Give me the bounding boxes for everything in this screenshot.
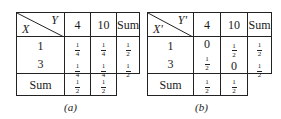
column-header: 4 — [194, 13, 221, 37]
fraction: 12 — [75, 79, 80, 95]
fraction: 12 — [257, 63, 262, 79]
data-column: 012 — [194, 37, 221, 74]
cell-value: 0 — [231, 59, 237, 73]
sum-row-label: Sum — [17, 74, 65, 96]
row-variable: X' — [153, 23, 163, 35]
column-header: Sum — [117, 13, 140, 37]
fraction: 12 — [257, 42, 262, 58]
sum-cell: 12 — [194, 74, 221, 96]
diagonal-header-cell: Y'X' — [148, 13, 194, 37]
data-column: 1414 — [91, 37, 117, 74]
caption-b: (b) — [195, 101, 208, 113]
column-variable: Y' — [178, 14, 187, 26]
table-b: Y'X'410Sum130121201212Sum1212 — [147, 12, 272, 96]
sum-cell: 12 — [221, 74, 248, 96]
row-labels: 13 — [17, 37, 65, 74]
data-column: 1212 — [248, 37, 272, 74]
row-labels: 13 — [148, 37, 194, 74]
data-column: 1414 — [65, 37, 91, 74]
cell-value: 0 — [204, 37, 210, 51]
caption-a: (a) — [64, 101, 77, 113]
row-variable: X — [22, 23, 29, 35]
column-header: 10 — [221, 13, 248, 37]
column-header: Sum — [248, 13, 272, 37]
data-column: 120 — [221, 37, 248, 74]
fraction: 14 — [75, 42, 80, 58]
fraction: 12 — [232, 43, 237, 59]
data-column: 1212 — [117, 37, 140, 74]
fraction: 12 — [232, 79, 237, 95]
fraction: 12 — [126, 63, 131, 79]
fraction: 14 — [101, 42, 106, 58]
sum-row-label: Sum — [148, 74, 194, 96]
fraction: 12 — [126, 42, 131, 58]
fraction: 12 — [101, 79, 106, 95]
table-a: YX410Sum13141414141212Sum1212 — [16, 12, 140, 96]
column-variable: Y — [51, 14, 58, 26]
column-header: 10 — [91, 13, 117, 37]
fraction: 12 — [205, 56, 210, 72]
column-header: 4 — [65, 13, 91, 37]
fraction: 12 — [205, 79, 210, 95]
diagonal-header-cell: YX — [17, 13, 65, 37]
